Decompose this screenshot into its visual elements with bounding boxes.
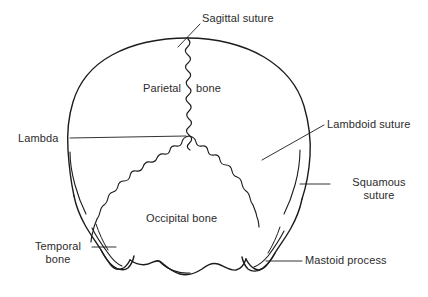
leader-line-lambda <box>70 136 186 138</box>
cranial-vault-left-outline <box>68 38 188 196</box>
squamous-suture-line <box>284 150 300 214</box>
label-lambda: Lambda <box>18 132 58 145</box>
label-sagittal-suture: Sagittal suture <box>202 12 274 25</box>
label-mastoid-process: Mastoid process <box>305 254 387 267</box>
label-lambdoid-suture: Lambdoid suture <box>327 118 410 131</box>
label-squamous-suture-line-1: Squamous <box>333 176 425 189</box>
leader-line-lambdoid-suture <box>262 125 324 160</box>
mastoid-process-left <box>101 250 134 270</box>
label-squamous-suture-line-2: suture <box>333 189 425 202</box>
label-occipital-bone: Occipital bone <box>146 212 217 225</box>
label-temporal-bone: Temporal bone <box>26 240 90 266</box>
label-parietal-bone-second-word: bone <box>196 82 221 95</box>
basilar-margin-hint <box>160 262 190 273</box>
skull-base-scalloped-margin <box>130 259 246 275</box>
sagittal-suture-line <box>185 39 191 150</box>
squamous-suture-line-left <box>70 152 86 214</box>
cranial-vault-right-outline <box>188 38 310 199</box>
skull-diagram-figure: Sagittal suture Parietal bone Lambda Lam… <box>0 0 428 297</box>
label-temporal-bone-line-2: bone <box>26 253 90 266</box>
lambdoid-suture-left <box>91 136 189 242</box>
leader-line-sagittal-suture <box>178 24 200 47</box>
label-squamous-suture: Squamous suture <box>333 176 425 202</box>
label-parietal-bone: Parietal <box>143 82 181 95</box>
label-temporal-bone-line-1: Temporal <box>26 240 90 253</box>
